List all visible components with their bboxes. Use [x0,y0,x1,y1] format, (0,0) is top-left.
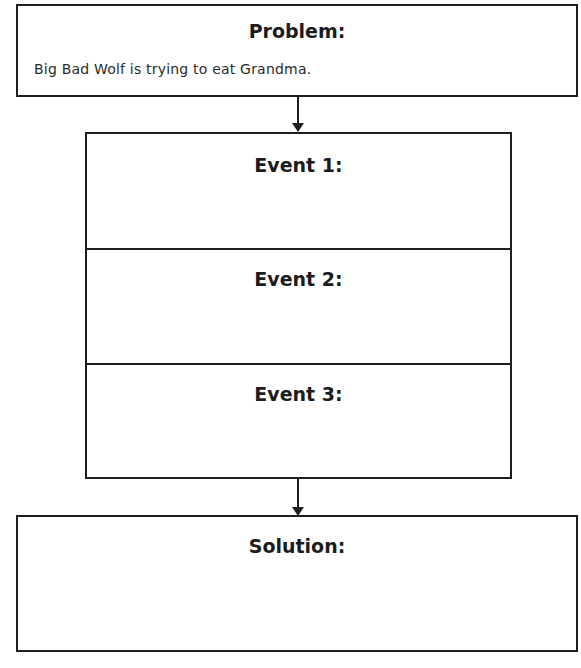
problem-heading: Problem: [18,20,576,42]
event-1-heading: Event 1: [87,154,510,176]
arrow-down-icon [297,97,299,124]
solution-heading: Solution: [18,535,576,557]
arrowhead-icon [292,123,304,132]
event-2-heading: Event 2: [87,268,510,290]
event-2-section: Event 2: [87,250,510,363]
solution-box: Solution: [16,515,578,652]
arrow-down-icon [297,479,299,509]
problem-box: Problem: Big Bad Wolf is trying to eat G… [16,4,578,97]
event-1-section: Event 1: [87,134,510,248]
events-box: Event 1: Event 2: Event 3: [85,132,512,479]
event-3-heading: Event 3: [87,383,510,405]
problem-answer[interactable]: Big Bad Wolf is trying to eat Grandma. [34,61,311,77]
event-3-section: Event 3: [87,365,510,477]
